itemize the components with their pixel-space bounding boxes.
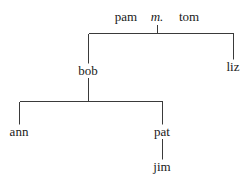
tree-node-m: m.	[149, 10, 166, 23]
tree-node-jim: jim	[151, 160, 172, 173]
tree-node-ann: ann	[8, 125, 31, 138]
tree-node-pam: pam	[113, 10, 139, 23]
tree-node-bob: bob	[76, 64, 100, 77]
tree-node-liz: liz	[225, 60, 242, 73]
tree-node-tom: tom	[177, 10, 201, 23]
family-tree-diagram: pamm.tomboblizannpatjim	[0, 0, 247, 184]
tree-connector-lines	[0, 0, 247, 184]
tree-node-pat: pat	[152, 125, 172, 138]
